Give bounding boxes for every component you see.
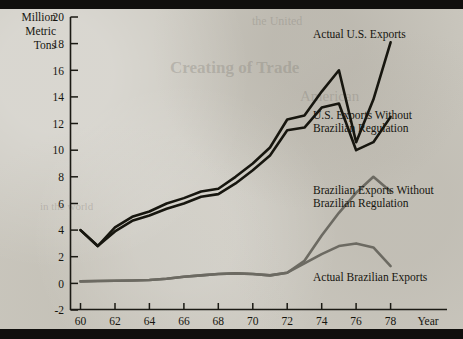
x-tick-label: 64 [144, 315, 156, 327]
y-tick-label: -2 [54, 304, 64, 316]
y-axis-title: Million Metric Tons [21, 11, 56, 51]
y-axis-ticks [71, 17, 79, 310]
series-label-brazil-without-line1: Brazilian Exports Without [313, 184, 434, 197]
page-root: Creating of Trade the United American in… [0, 0, 463, 339]
x-tick-label: 72 [281, 315, 293, 327]
series-label-actual-brazil: Actual Brazilian Exports [313, 271, 428, 284]
y-axis-tick-labels: 20 18 16 14 12 10 8 6 4 2 0 -2 [53, 11, 65, 316]
x-axis-tick-labels: 60 62 64 66 68 70 72 74 76 78 [75, 315, 397, 327]
series-group [81, 42, 391, 281]
x-tick-label: 60 [75, 315, 87, 327]
exports-line-chart: 20 18 16 14 12 10 8 6 4 2 0 -2 Million M… [0, 0, 463, 339]
x-tick-label: 68 [213, 315, 225, 327]
y-axis-title-line: Tons [34, 39, 57, 51]
y-axis-title-line: Metric [25, 25, 56, 37]
y-tick-label: 2 [58, 251, 64, 263]
series-label-us-without-line1: U.S. Exports Without [313, 109, 413, 122]
y-tick-label: 14 [53, 91, 65, 103]
x-tick-label: 76 [350, 315, 362, 327]
x-axis-name: Year [417, 315, 438, 327]
y-tick-label: 10 [53, 144, 65, 156]
x-tick-label: 78 [385, 315, 397, 327]
series-line-actual-us [81, 42, 391, 246]
y-tick-label: 8 [58, 171, 64, 183]
y-tick-label: 6 [58, 198, 64, 210]
y-axis-title-line: Million [21, 11, 56, 23]
y-tick-label: 0 [58, 278, 64, 290]
y-tick-label: 16 [53, 65, 65, 77]
x-tick-label: 66 [178, 315, 190, 327]
series-label-actual-us: Actual U.S. Exports [313, 28, 406, 41]
x-tick-label: 74 [316, 315, 328, 327]
series-label-us-without-line2: Brazilian Regulation [313, 122, 409, 135]
x-tick-label: 70 [247, 315, 259, 327]
series-label-brazil-without-line2: Brazilian Regulation [313, 197, 409, 210]
y-tick-label: 4 [58, 224, 64, 236]
y-tick-label: 12 [53, 118, 65, 130]
x-tick-label: 62 [109, 315, 121, 327]
